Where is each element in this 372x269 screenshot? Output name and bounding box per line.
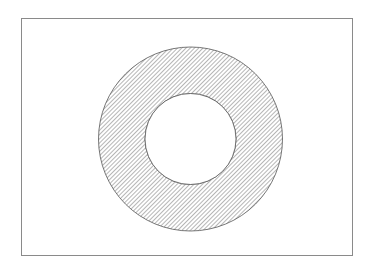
- inner-circle: [145, 94, 236, 185]
- diagram-canvas: [0, 0, 372, 269]
